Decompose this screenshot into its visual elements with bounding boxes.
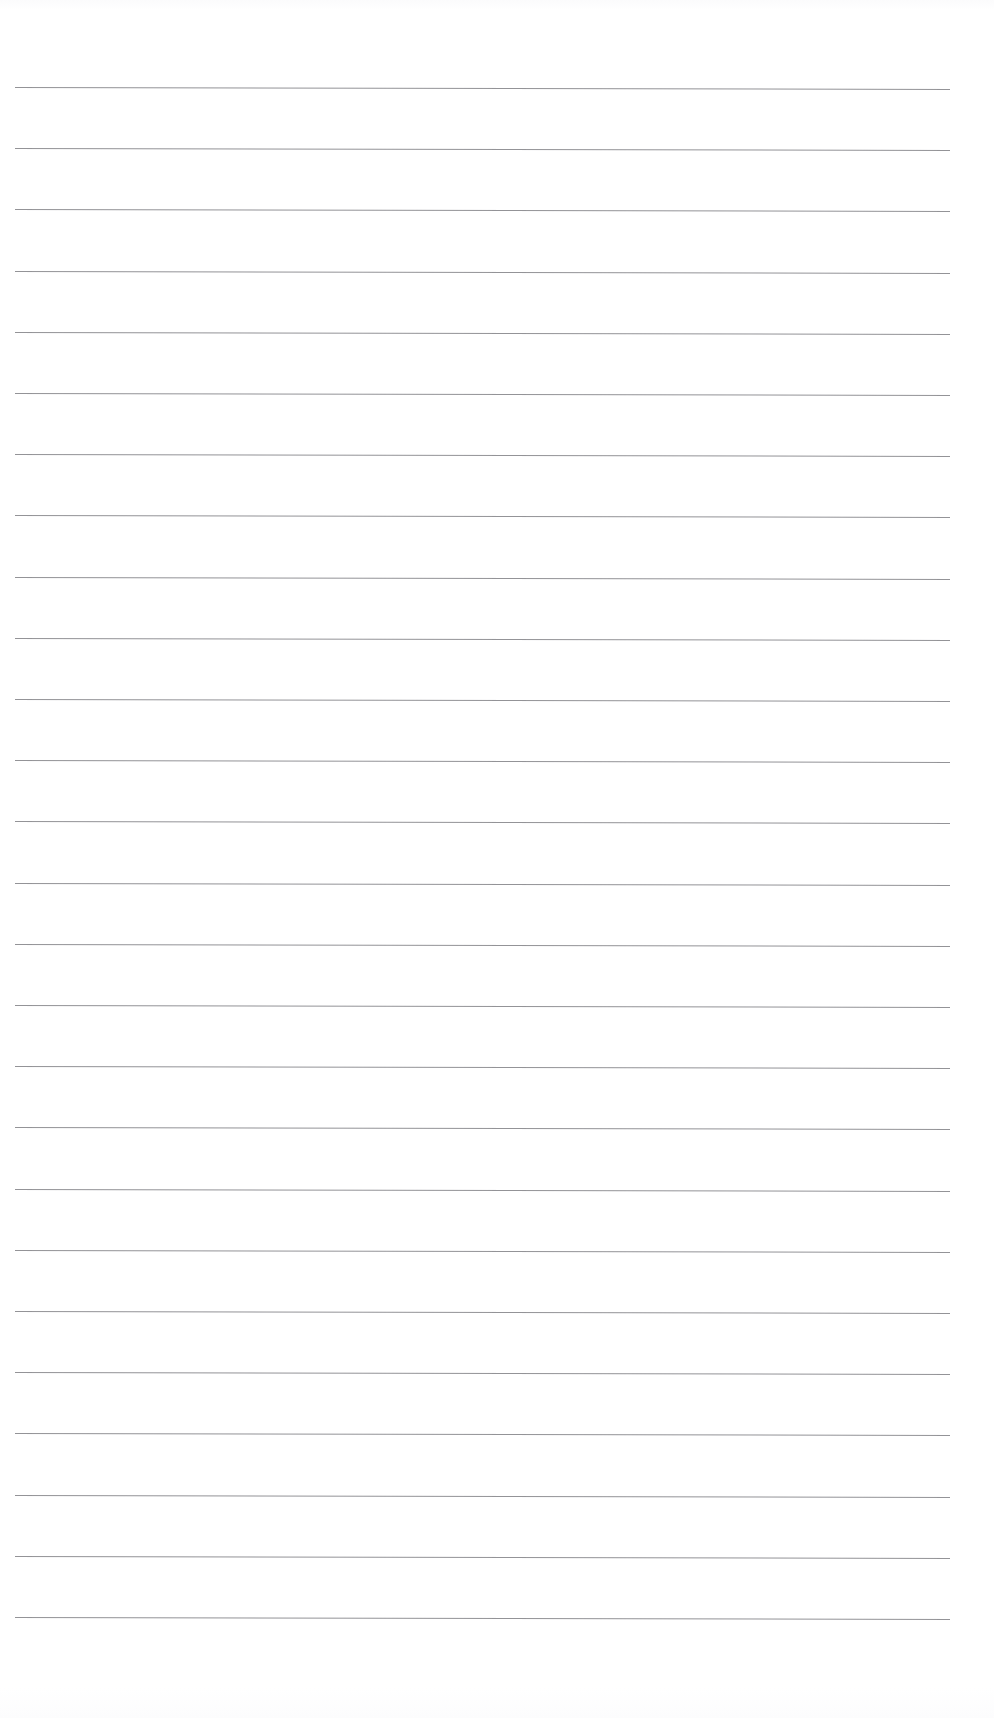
rule-line: [15, 760, 950, 763]
rule-line: [15, 1617, 950, 1620]
rule-line: [15, 1127, 950, 1130]
rule-line: [15, 1556, 950, 1559]
rule-line: [15, 1005, 950, 1008]
rule-line: [15, 271, 950, 274]
rule-line: [15, 148, 950, 151]
rule-line: [15, 454, 950, 457]
rule-line: [15, 1189, 950, 1192]
rule-line: [15, 638, 950, 641]
scanned-page: [0, 0, 994, 1718]
rule-line: [15, 393, 950, 396]
rule-line: [15, 332, 950, 335]
rule-line: [15, 515, 950, 518]
rule-line: [15, 1495, 950, 1498]
rule-line: [15, 1066, 950, 1069]
rule-line: [15, 883, 950, 886]
rule-line: [15, 821, 950, 824]
rule-line: [15, 1433, 950, 1436]
rule-line: [15, 577, 950, 580]
rule-line: [15, 1250, 950, 1253]
rule-line: [15, 699, 950, 702]
ruled-lines-layer: [0, 0, 994, 1718]
rule-line: [15, 209, 950, 212]
rule-line: [15, 1311, 950, 1314]
rule-line: [15, 87, 950, 90]
rule-line: [15, 1372, 950, 1375]
rule-line: [15, 944, 950, 947]
